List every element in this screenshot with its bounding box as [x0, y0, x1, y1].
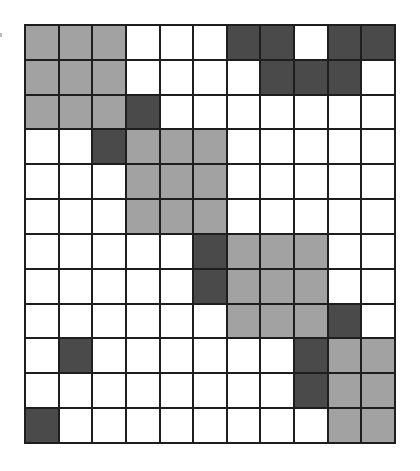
grid-cell-r9-c0: [26, 339, 58, 372]
grid-cell-r9-c9: [329, 339, 361, 372]
grid-cell-r5-c7: [261, 200, 293, 233]
grid-cell-r8-c3: [127, 305, 159, 338]
grid-cell-r5-c8: [295, 200, 327, 233]
grid-cell-r7-c6: [228, 270, 260, 303]
grid-cell-r10-c0: [26, 374, 58, 407]
grid-cell-r7-c7: [261, 270, 293, 303]
grid-cell-r6-c8: [295, 235, 327, 268]
grid-cell-r2-c7: [261, 96, 293, 129]
grid-cell-r1-c0: [26, 61, 58, 94]
grid-cell-r0-c0: [26, 26, 58, 59]
grid-cell-r0-c5: [194, 26, 226, 59]
grid-cell-r2-c8: [295, 96, 327, 129]
grid-cell-r11-c1: [60, 409, 92, 442]
grid-cell-r10-c9: [329, 374, 361, 407]
grid-cell-r4-c5: [194, 165, 226, 198]
grid-cell-r10-c1: [60, 374, 92, 407]
grid-cell-r7-c1: [60, 270, 92, 303]
grid-cell-r0-c2: [93, 26, 125, 59]
grid-cell-r6-c1: [60, 235, 92, 268]
grid-cell-r8-c9: [329, 305, 361, 338]
grid-cell-r2-c1: [60, 96, 92, 129]
grid-cell-r0-c6: [228, 26, 260, 59]
grid-cell-r9-c1: [60, 339, 92, 372]
margin-mark: [0, 33, 2, 37]
grid-cell-r2-c4: [161, 96, 193, 129]
grid-cell-r3-c3: [127, 130, 159, 163]
grid-cell-r9-c3: [127, 339, 159, 372]
grid-cell-r11-c0: [26, 409, 58, 442]
grid-cell-r1-c3: [127, 61, 159, 94]
grid-cell-r6-c10: [362, 235, 394, 268]
grid-cell-r4-c3: [127, 165, 159, 198]
grid-cell-r0-c8: [295, 26, 327, 59]
grid-cell-r6-c7: [261, 235, 293, 268]
grid-cell-r8-c4: [161, 305, 193, 338]
grid-cell-r11-c2: [93, 409, 125, 442]
grid-cell-r2-c3: [127, 96, 159, 129]
grid-cell-r6-c5: [194, 235, 226, 268]
grid-cell-r9-c10: [362, 339, 394, 372]
grid-cell-r9-c4: [161, 339, 193, 372]
grid-cell-r4-c7: [261, 165, 293, 198]
grid-cell-r0-c3: [127, 26, 159, 59]
grid-cell-r3-c2: [93, 130, 125, 163]
grid-cell-r3-c5: [194, 130, 226, 163]
grid-cell-r9-c8: [295, 339, 327, 372]
grid-cell-r10-c5: [194, 374, 226, 407]
grid-cell-r2-c10: [362, 96, 394, 129]
grid-cell-r7-c0: [26, 270, 58, 303]
grid-cell-r1-c9: [329, 61, 361, 94]
grid-cell-r5-c0: [26, 200, 58, 233]
grid-cell-r7-c8: [295, 270, 327, 303]
grid-cell-r5-c2: [93, 200, 125, 233]
grid-cell-r10-c2: [93, 374, 125, 407]
grid-cell-r7-c5: [194, 270, 226, 303]
grid-cell-r8-c10: [362, 305, 394, 338]
grid-cell-r5-c10: [362, 200, 394, 233]
grid-cell-r7-c4: [161, 270, 193, 303]
grid-cell-r3-c9: [329, 130, 361, 163]
grid-cell-r8-c5: [194, 305, 226, 338]
grid-cell-r11-c10: [362, 409, 394, 442]
grid-cell-r0-c10: [362, 26, 394, 59]
grid-cell-r2-c6: [228, 96, 260, 129]
grid-cell-r1-c2: [93, 61, 125, 94]
grid-cell-r8-c8: [295, 305, 327, 338]
diagram-canvas: [0, 0, 420, 471]
grid-cell-r6-c0: [26, 235, 58, 268]
grid-cell-r4-c9: [329, 165, 361, 198]
grid-cell-r0-c7: [261, 26, 293, 59]
grid-cell-r1-c7: [261, 61, 293, 94]
grid-cell-r10-c3: [127, 374, 159, 407]
grid-cell-r1-c4: [161, 61, 193, 94]
cell-grid: [24, 24, 396, 444]
grid-cell-r7-c9: [329, 270, 361, 303]
grid-cell-r8-c1: [60, 305, 92, 338]
grid-cell-r2-c9: [329, 96, 361, 129]
grid-cell-r6-c2: [93, 235, 125, 268]
grid-cell-r9-c5: [194, 339, 226, 372]
grid-cell-r10-c8: [295, 374, 327, 407]
grid-cell-r0-c1: [60, 26, 92, 59]
grid-cell-r1-c10: [362, 61, 394, 94]
grid-cell-r3-c7: [261, 130, 293, 163]
grid-cell-r2-c5: [194, 96, 226, 129]
grid-cell-r4-c8: [295, 165, 327, 198]
grid-cell-r7-c10: [362, 270, 394, 303]
grid-cell-r3-c10: [362, 130, 394, 163]
grid-cell-r2-c0: [26, 96, 58, 129]
grid-cell-r4-c0: [26, 165, 58, 198]
grid-cell-r5-c9: [329, 200, 361, 233]
grid-cell-r3-c6: [228, 130, 260, 163]
grid-cell-r10-c4: [161, 374, 193, 407]
grid-cell-r3-c4: [161, 130, 193, 163]
grid-cell-r3-c0: [26, 130, 58, 163]
grid-cell-r2-c2: [93, 96, 125, 129]
grid-cell-r11-c6: [228, 409, 260, 442]
grid-cell-r11-c7: [261, 409, 293, 442]
grid-cell-r5-c1: [60, 200, 92, 233]
grid-cell-r7-c2: [93, 270, 125, 303]
grid-cell-r11-c9: [329, 409, 361, 442]
grid-cell-r5-c3: [127, 200, 159, 233]
